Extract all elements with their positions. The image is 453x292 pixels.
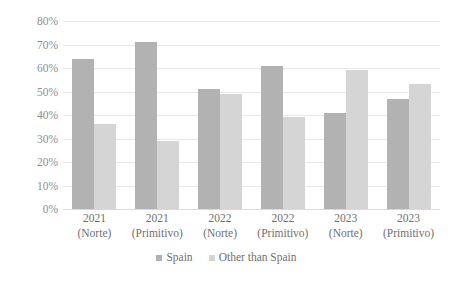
x-axis-baseline <box>63 209 440 210</box>
bar-spain <box>135 42 157 209</box>
bar-other-than-spain <box>346 70 368 209</box>
chart-legend: SpainOther than Spain <box>0 251 453 264</box>
bar-other-than-spain <box>283 117 305 209</box>
y-axis-tick-label: 10% <box>2 180 58 192</box>
x-axis: 2021(Norte)2021(Primitivo)2022(Norte)202… <box>63 211 440 247</box>
bar-chart: 80%70%60%50%40%30%20%10%0% 2021(Norte)20… <box>0 0 453 292</box>
x-axis-category-label: 2023(Primitivo) <box>369 211 448 241</box>
bar-group <box>189 21 252 209</box>
plot-area <box>63 21 440 209</box>
y-axis-tick-label: 50% <box>2 86 58 98</box>
y-axis-tick-label: 20% <box>2 156 58 168</box>
bar-group <box>314 21 377 209</box>
bar-other-than-spain <box>409 84 431 209</box>
bar-group <box>252 21 315 209</box>
bar-other-than-spain <box>220 94 242 209</box>
bar-spain <box>261 66 283 209</box>
y-axis-tick-label: 80% <box>2 15 58 27</box>
bar-group <box>126 21 189 209</box>
bar-spain <box>387 99 409 209</box>
bar-group <box>63 21 126 209</box>
y-axis-tick-label: 60% <box>2 62 58 74</box>
bar-spain <box>198 89 220 209</box>
y-axis: 80%70%60%50%40%30%20%10%0% <box>0 0 58 292</box>
bar-other-than-spain <box>94 124 116 209</box>
x-axis-category-region: (Primitivo) <box>369 226 448 241</box>
bar-group <box>377 21 440 209</box>
bar-other-than-spain <box>157 141 179 209</box>
legend-item[interactable]: Spain <box>156 251 192 264</box>
bar-spain <box>324 113 346 209</box>
y-axis-tick-label: 0% <box>2 203 58 215</box>
y-axis-tick-label: 40% <box>2 109 58 121</box>
legend-item-label: Other than Spain <box>219 251 297 264</box>
x-axis-category-year: 2023 <box>369 211 448 226</box>
legend-swatch-other-icon <box>209 255 215 261</box>
legend-swatch-spain-icon <box>156 255 162 261</box>
y-axis-tick-label: 70% <box>2 39 58 51</box>
legend-item-label: Spain <box>166 251 192 264</box>
y-axis-tick-label: 30% <box>2 133 58 145</box>
legend-item[interactable]: Other than Spain <box>209 251 297 264</box>
bar-spain <box>72 59 94 209</box>
